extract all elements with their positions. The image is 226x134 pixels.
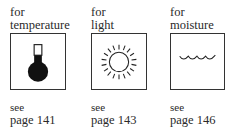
page-reference: page 141 bbox=[10, 114, 55, 127]
sun-icon bbox=[92, 34, 146, 89]
header: for light bbox=[91, 6, 114, 32]
header: for temperature bbox=[10, 6, 70, 32]
footer: see page 146 bbox=[170, 101, 215, 127]
topic-label: light bbox=[91, 19, 114, 32]
page-reference: page 146 bbox=[170, 114, 215, 127]
water-wave-icon bbox=[171, 34, 224, 89]
header: for moisture bbox=[170, 6, 214, 32]
icon-box bbox=[91, 33, 147, 90]
icon-box bbox=[10, 33, 66, 90]
topic-label: moisture bbox=[170, 19, 214, 32]
footer: see page 141 bbox=[10, 101, 55, 127]
icon-box bbox=[170, 33, 225, 90]
topic-label: temperature bbox=[10, 19, 70, 32]
thermometer-icon bbox=[11, 34, 65, 89]
footer: see page 143 bbox=[91, 101, 136, 127]
page-reference: page 143 bbox=[91, 114, 136, 127]
